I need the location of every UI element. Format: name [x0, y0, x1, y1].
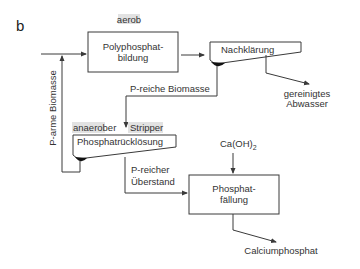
p-reicher-ueberstand-arrow [125, 157, 187, 193]
phosphatruecklosung-label: Phosphatrücklösung [77, 136, 163, 147]
nachklaerung-node: Nachklärung [210, 42, 301, 66]
phosphatfaellung-label-line1: Phosphat- [212, 183, 255, 194]
reagent-base: Ca(OH) [220, 138, 253, 149]
p-arme-biomasse-label: P-arme Biomasse [47, 70, 58, 146]
phosphate-removal-process-diagram: b aerob Polyphosphat- bildung Nachklärun… [0, 0, 360, 269]
panel-label: b [16, 17, 24, 34]
p-reicher-ueberstand-line2: Überstand [131, 176, 175, 187]
calciumphosphat-label: Calciumphosphat [244, 245, 318, 256]
clean-water-outflow-arrow [266, 55, 309, 84]
anaerober-label: anaerober [73, 122, 116, 133]
reagent-label: Ca(OH)2 [220, 138, 257, 151]
polyphosphatbildung-label-line2: bildung [118, 52, 149, 63]
nachklaerung-label: Nachklärung [221, 44, 274, 55]
phosphatfaellung-node: Phosphat- fällung [189, 175, 279, 214]
stripper-label: Stripper [130, 122, 163, 133]
aerob-label: aerob [117, 14, 141, 25]
phosphatfaellung-label-line2: fällung [220, 194, 248, 205]
polyphosphatbildung-label-line1: Polyphosphat- [103, 41, 164, 52]
p-reicher-ueberstand-line1: P-reicher [131, 164, 170, 175]
p-reiche-biomasse-label: P-reiche Biomasse [130, 83, 210, 94]
calciumphosphat-outflow-arrow [233, 214, 276, 242]
polyphosphatbildung-node: Polyphosphat- bildung [88, 32, 178, 72]
p-reiche-biomasse-arrow [126, 66, 217, 127]
reagent-subscript: 2 [253, 144, 257, 151]
gereinigtes-abwasser-line2: Abwasser [286, 98, 328, 109]
